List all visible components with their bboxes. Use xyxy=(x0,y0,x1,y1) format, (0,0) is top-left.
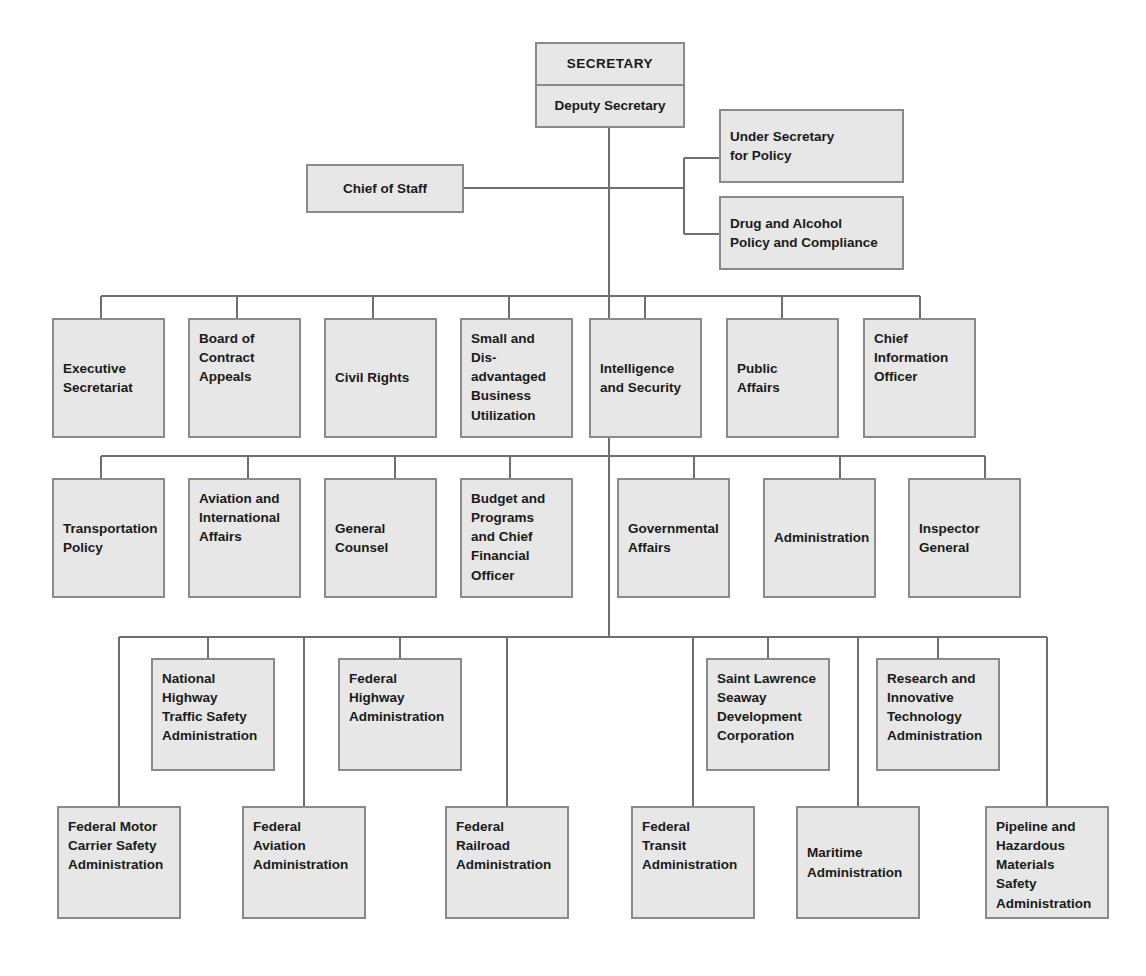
node-federal-aviation-administration[interactable]: Federal Aviation Administration xyxy=(242,806,366,919)
node-drug-and-alcohol-policy[interactable]: Drug and Alcohol Policy and Compliance xyxy=(719,196,904,270)
node-under-secretary-for-policy[interactable]: Under Secretary for Policy xyxy=(719,109,904,183)
node-budget-and-programs-cfo[interactable]: Budget and Programs and Chief Financial … xyxy=(460,478,573,598)
node-federal-railroad-administration[interactable]: Federal Railroad Administration xyxy=(445,806,569,919)
node-chief-of-staff[interactable]: Chief of Staff xyxy=(306,164,464,213)
aviation-and-international-affairs-label: Aviation and International Affairs xyxy=(190,489,299,546)
research-and-innovative-technology-administration-label: Research and Innovative Technology Admin… xyxy=(878,669,998,746)
federal-aviation-administration-label: Federal Aviation Administration xyxy=(244,817,364,874)
node-transportation-policy[interactable]: Transportation Policy xyxy=(52,478,165,598)
org-chart: SECRETARY Deputy Secretary Chief of Staf… xyxy=(0,0,1146,976)
node-board-of-contract-appeals[interactable]: Board of Contract Appeals xyxy=(188,318,301,438)
node-inspector-general[interactable]: Inspector General xyxy=(908,478,1021,598)
intelligence-and-security-label: Intelligence and Security xyxy=(591,359,700,397)
node-national-highway-traffic-safety-administration[interactable]: National Highway Traffic Safety Administ… xyxy=(151,658,275,771)
executive-secretariat-label: Executive Secretariat xyxy=(54,359,163,397)
chief-information-officer-label: Chief Information Officer xyxy=(865,329,974,386)
general-counsel-label: General Counsel xyxy=(326,519,435,557)
node-general-counsel[interactable]: General Counsel xyxy=(324,478,437,598)
node-chief-information-officer[interactable]: Chief Information Officer xyxy=(863,318,976,438)
node-federal-highway-administration[interactable]: Federal Highway Administration xyxy=(338,658,462,771)
node-small-and-disadvantaged-business-utilization[interactable]: Small and Dis- advantaged Business Utili… xyxy=(460,318,573,438)
inspector-general-label: Inspector General xyxy=(910,519,1019,557)
deputy-secretary-label: Deputy Secretary xyxy=(548,96,671,115)
federal-transit-administration-label: Federal Transit Administration xyxy=(633,817,753,874)
pipeline-hazardous-materials-safety-administration-label: Pipeline and Hazardous Materials Safety … xyxy=(987,817,1107,913)
node-administration[interactable]: Administration xyxy=(763,478,876,598)
node-governmental-affairs[interactable]: Governmental Affairs xyxy=(617,478,730,598)
civil-rights-label: Civil Rights xyxy=(326,368,435,387)
node-executive-secretariat[interactable]: Executive Secretariat xyxy=(52,318,165,438)
maritime-administration-label: Maritime Administration xyxy=(798,843,918,881)
drug-and-alcohol-policy-label: Drug and Alcohol Policy and Compliance xyxy=(721,214,902,252)
deputy-secretary-segment: Deputy Secretary xyxy=(537,86,683,126)
chief-of-staff-label: Chief of Staff xyxy=(308,179,462,198)
saint-lawrence-seaway-development-corporation-label: Saint Lawrence Seaway Development Corpor… xyxy=(708,669,828,746)
node-intelligence-and-security[interactable]: Intelligence and Security xyxy=(589,318,702,438)
node-research-and-innovative-technology-administration[interactable]: Research and Innovative Technology Admin… xyxy=(876,658,1000,771)
node-aviation-and-international-affairs[interactable]: Aviation and International Affairs xyxy=(188,478,301,598)
node-public-affairs[interactable]: Public Affairs xyxy=(726,318,839,438)
secretary-label: SECRETARY xyxy=(561,54,659,73)
node-saint-lawrence-seaway-development-corporation[interactable]: Saint Lawrence Seaway Development Corpor… xyxy=(706,658,830,771)
budget-and-programs-cfo-label: Budget and Programs and Chief Financial … xyxy=(462,489,571,585)
under-secretary-for-policy-label: Under Secretary for Policy xyxy=(721,127,902,165)
federal-highway-administration-label: Federal Highway Administration xyxy=(340,669,460,726)
node-maritime-administration[interactable]: Maritime Administration xyxy=(796,806,920,919)
federal-motor-carrier-safety-administration-label: Federal Motor Carrier Safety Administrat… xyxy=(59,817,179,874)
node-secretary[interactable]: SECRETARY Deputy Secretary xyxy=(535,42,685,128)
node-civil-rights[interactable]: Civil Rights xyxy=(324,318,437,438)
board-of-contract-appeals-label: Board of Contract Appeals xyxy=(190,329,299,386)
secretary-segment: SECRETARY xyxy=(537,44,683,86)
transportation-policy-label: Transportation Policy xyxy=(54,519,163,557)
node-pipeline-hazardous-materials-safety-administration[interactable]: Pipeline and Hazardous Materials Safety … xyxy=(985,806,1109,919)
federal-railroad-administration-label: Federal Railroad Administration xyxy=(447,817,567,874)
governmental-affairs-label: Governmental Affairs xyxy=(619,519,728,557)
node-federal-transit-administration[interactable]: Federal Transit Administration xyxy=(631,806,755,919)
administration-label: Administration xyxy=(765,528,874,547)
small-and-disadvantaged-business-utilization-label: Small and Dis- advantaged Business Utili… xyxy=(462,329,571,425)
national-highway-traffic-safety-administration-label: National Highway Traffic Safety Administ… xyxy=(153,669,273,746)
node-federal-motor-carrier-safety-administration[interactable]: Federal Motor Carrier Safety Administrat… xyxy=(57,806,181,919)
public-affairs-label: Public Affairs xyxy=(728,359,837,397)
